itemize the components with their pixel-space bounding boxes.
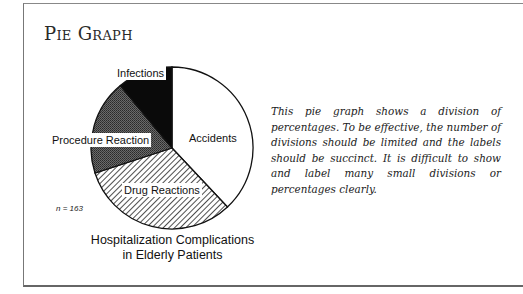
label-infections: Infections	[115, 66, 166, 80]
label-accidents: Accidents	[189, 132, 237, 144]
label-drug-reactions: Drug Reactions	[122, 183, 202, 197]
description-paragraph: This pie graph shows a division of perce…	[271, 104, 501, 198]
sample-size: n = 163	[56, 204, 83, 213]
label-procedure-reaction: Procedure Reaction	[50, 133, 151, 147]
caption-line-2: in Elderly Patients	[80, 248, 265, 263]
caption-line-1: Hospitalization Complications	[80, 233, 265, 248]
chart-caption: Hospitalization Complications in Elderly…	[80, 233, 265, 263]
